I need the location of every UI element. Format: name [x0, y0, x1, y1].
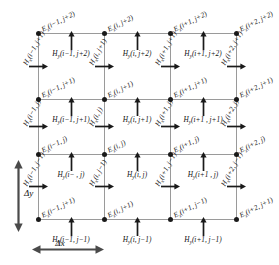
hy-label: Hy(i− , j): [58, 171, 85, 178]
ez-node: [36, 217, 41, 222]
hy-label: Hy(i, j+2): [123, 50, 152, 57]
hy-label: Hy(i−1, j+2): [52, 50, 89, 57]
ez-label: Ez(i, j): [106, 139, 126, 154]
hy-label: Hy(i−1, j+1): [52, 116, 89, 123]
ez-node: [102, 97, 107, 102]
ez-label: Ez(i+2, j+1): [238, 76, 274, 99]
hy-label: Hy(i, j−1): [123, 236, 152, 243]
hx-label: Hx(i+2, j+1): [220, 30, 244, 66]
hy-field-arrow-icon: [68, 31, 75, 50]
ez-label: Ez(i−1, j+2): [40, 10, 76, 33]
ez-label: Ez(i+1, j+1): [172, 76, 208, 99]
hy-field-arrow-icon: [200, 217, 207, 236]
ez-node: [102, 217, 107, 222]
ez-label: Ez(i+1, j−1): [172, 196, 208, 219]
hx-field-arrow-icon: [29, 63, 48, 70]
ez-label: Ez(i+2, j+1): [238, 196, 274, 219]
hy-field-arrow-icon: [200, 31, 207, 50]
hy-field-arrow-icon: [134, 152, 141, 171]
hy-label: Hy(i+1, j−1): [184, 236, 221, 243]
hy-field-arrow-icon: [134, 217, 141, 236]
hx-field-arrow-icon: [161, 63, 180, 70]
ez-node: [102, 152, 107, 157]
hx-field-arrow-icon: [227, 63, 246, 70]
hx-label: Hx(i+2, j−1): [220, 150, 244, 186]
hx-label: Hx(i+1, j−1): [154, 150, 178, 186]
ez-label: Ez(i+1, j+2): [172, 10, 208, 33]
ez-label: Ez(i, j+2): [106, 14, 134, 33]
delta-x-label: Δx: [55, 238, 64, 248]
ez-label: Ez(i, j+1): [106, 200, 134, 219]
ez-label: Ez(i, j+1): [106, 80, 134, 99]
ez-label: Ez(i+1, j): [172, 135, 200, 154]
hy-field-arrow-icon: [134, 31, 141, 50]
delta-x-arrow-icon: [32, 245, 104, 254]
ez-label: Ez(i+2, j): [238, 135, 266, 154]
ez-label: Ez(i−1, j): [40, 135, 68, 154]
hy-label: Hy(i+1 , j): [188, 171, 219, 178]
hy-label: Hy(i+1 , j+1): [183, 116, 222, 123]
hx-field-arrow-icon: [95, 63, 114, 70]
hy-field-arrow-icon: [200, 152, 207, 171]
fdtd-grid-figure: Ez(i−1, j+2)Ez(i, j+2)Ez(i+1, j+2)Ez(i+2…: [0, 0, 279, 265]
ez-label: Ez(i+2, j+2): [238, 10, 274, 33]
ez-node: [102, 31, 107, 36]
ez-node: [234, 217, 239, 222]
hy-field-arrow-icon: [134, 97, 141, 116]
hy-field-arrow-icon: [200, 97, 207, 116]
hx-label: Hx(i−1, j−1): [22, 150, 46, 186]
ez-label: Ez(i−1, j+1): [40, 196, 76, 219]
hy-label: Hy(i, j): [127, 171, 147, 178]
ez-label: Ez(i−1, j+1): [40, 76, 76, 99]
hy-label: Hy(i+1, j+2): [184, 50, 221, 57]
delta-y-arrow-icon: [14, 160, 23, 232]
hy-field-arrow-icon: [68, 217, 75, 236]
delta-y-label: Δy: [24, 188, 33, 198]
hx-label: Hx(i+1, j+1): [154, 30, 178, 66]
hy-field-arrow-icon: [68, 152, 75, 171]
hy-label: Hy(i, j+1): [123, 116, 152, 123]
hx-label: Hx(i−1, j+1): [22, 30, 46, 66]
ez-node: [168, 217, 173, 222]
hy-field-arrow-icon: [68, 97, 75, 116]
